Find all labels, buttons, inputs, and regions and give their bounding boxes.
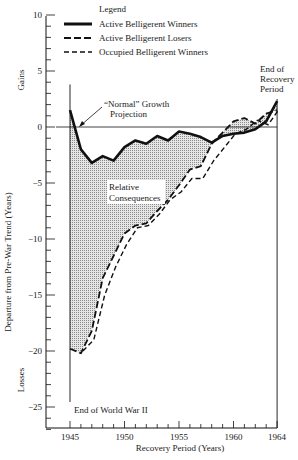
relative-consequences-label-2: Consequences <box>109 193 161 203</box>
x-tick-label: 1950 <box>116 432 135 442</box>
y-axis-title: Departure from Pre-War Trend (Years) <box>3 192 13 331</box>
y-tick-label: 5 <box>38 66 43 76</box>
normal-growth-label-2: Projection <box>110 109 147 119</box>
x-tick-label: 1945 <box>61 432 80 442</box>
y-tick-label: −10 <box>28 234 43 244</box>
x-tick-label: 1955 <box>170 432 189 442</box>
legend: Legend Active Belligerent Winners Active… <box>64 4 208 57</box>
y-tick-label: −15 <box>28 290 43 300</box>
end-ww2-label: End of World War II <box>74 405 148 415</box>
shaded-region <box>70 101 277 353</box>
axes: 1050−5−10−15−20−2519451950195519601964 <box>28 10 287 442</box>
losses-label: Losses <box>16 367 26 392</box>
y-tick-label: −5 <box>32 178 42 188</box>
legend-label-winners: Active Belligerent Winners <box>99 19 198 29</box>
x-tick-label: 1964 <box>268 432 287 442</box>
relative-consequences-area <box>70 101 277 353</box>
x-axis-title: Recovery Period (Years) <box>136 443 225 453</box>
end-recovery-label-2: Recovery <box>260 74 295 84</box>
y-tick-label: −20 <box>28 346 43 356</box>
y-tick-label: 0 <box>38 122 43 132</box>
x-tick-label: 1960 <box>225 432 244 442</box>
legend-title: Legend <box>99 4 126 14</box>
end-recovery-label: End of <box>260 64 284 74</box>
arrow-head-icon <box>79 121 85 127</box>
legend-label-occupied: Occupied Belligerent Winners <box>99 47 208 57</box>
relative-consequences-label: Relative <box>109 182 139 192</box>
normal-growth-label: “Normal” Growth <box>104 99 170 109</box>
gains-label: Gains <box>16 69 26 90</box>
end-recovery-label-3: Period <box>260 84 284 94</box>
y-tick-label: −25 <box>28 402 43 412</box>
chart: 1050−5−10−15−20−2519451950195519601964 L… <box>0 0 298 460</box>
y-tick-label: 10 <box>33 10 43 20</box>
legend-label-losers: Active Belligerent Losers <box>99 33 192 43</box>
